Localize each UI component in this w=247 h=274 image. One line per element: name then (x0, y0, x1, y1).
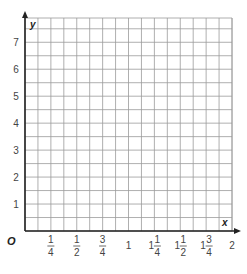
svg-text:2: 2 (180, 247, 186, 258)
y-axis-arrow-icon (22, 11, 28, 18)
x-tick-label: 2 (229, 240, 235, 251)
svg-text:1: 1 (126, 240, 132, 251)
svg-text:3: 3 (206, 234, 212, 245)
y-tick-label: 1 (13, 199, 19, 210)
x-tick-label: 34 (99, 234, 106, 258)
x-tick-labels: 14123411141121342 (47, 234, 235, 258)
axes (22, 11, 241, 234)
coordinate-grid-chart: 1234567 14123411141121342 x y O (0, 0, 247, 274)
x-axis-arrow-icon (234, 228, 241, 234)
y-axis-label: y (29, 19, 36, 30)
x-tick-label: 112 (174, 234, 186, 258)
svg-text:2: 2 (229, 240, 235, 251)
y-tick-label: 7 (13, 37, 19, 48)
x-tick-label: 14 (47, 234, 54, 258)
y-tick-label: 3 (13, 145, 19, 156)
svg-text:2: 2 (74, 247, 80, 258)
x-tick-label: 1 (126, 240, 132, 251)
svg-text:1: 1 (74, 234, 80, 245)
svg-text:1: 1 (155, 234, 161, 245)
origin-label: O (7, 235, 16, 247)
svg-text:4: 4 (100, 247, 106, 258)
y-tick-labels: 1234567 (13, 37, 19, 210)
x-tick-label: 114 (149, 234, 161, 258)
x-axis-label: x (221, 217, 228, 228)
grid-lines (25, 18, 232, 231)
svg-text:4: 4 (206, 247, 212, 258)
x-tick-label: 12 (73, 234, 80, 258)
svg-text:4: 4 (48, 247, 54, 258)
svg-text:3: 3 (100, 234, 106, 245)
x-tick-label: 134 (200, 234, 212, 258)
svg-text:4: 4 (155, 247, 161, 258)
svg-text:1: 1 (180, 234, 186, 245)
y-tick-label: 4 (13, 118, 19, 129)
y-tick-label: 5 (13, 91, 19, 102)
y-tick-label: 2 (13, 172, 19, 183)
svg-text:1: 1 (48, 234, 54, 245)
y-tick-label: 6 (13, 64, 19, 75)
